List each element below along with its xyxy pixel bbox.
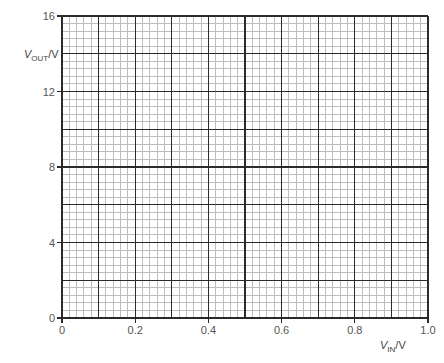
y-tick-label: 0 [49,312,55,324]
y-tick-label: 16 [43,10,55,22]
y-tick-label: 8 [49,161,55,173]
x-tick-label: 0.8 [347,324,362,336]
x-tick-label: 0 [59,324,65,336]
x-tick-label: 0.4 [201,324,216,336]
x-tick-labels: 00.20.40.60.81.0 [59,324,436,336]
y-tick-label: 12 [43,86,55,98]
x-tick-label: 0.6 [274,324,289,336]
x-tick-label: 0.2 [128,324,143,336]
x-tick-label: 1.0 [420,324,435,336]
graph-paper-chart: 0481216 00.20.40.60.81.0 VOUT/V VIN/V [0,0,444,363]
y-tick-label: 4 [49,237,55,249]
x-axis-label: VIN/V [380,339,406,354]
axes [57,16,428,323]
y-axis-label: VOUT/V [24,48,59,63]
